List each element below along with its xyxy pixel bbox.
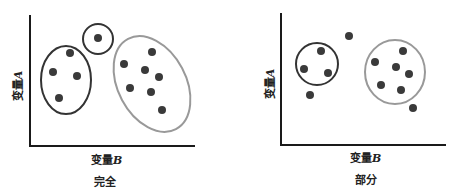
cluster-outlines: [41, 23, 206, 145]
data-point: [306, 91, 314, 99]
data-point: [300, 65, 308, 73]
data-point: [148, 48, 156, 56]
cluster-ellipse: [365, 40, 425, 104]
data-point: [392, 63, 400, 71]
x-label-text: 变量: [350, 152, 372, 165]
data-point: [49, 68, 57, 76]
data-point: [155, 73, 163, 81]
data-point: [409, 104, 417, 112]
data-point: [345, 32, 353, 40]
data-point: [405, 70, 413, 78]
caption-complete: 完全: [94, 173, 116, 189]
panel-partial: [280, 13, 446, 145]
cluster-ellipse: [98, 23, 206, 145]
x-var: B: [372, 152, 381, 165]
x-axis-label-partial: 变量B: [350, 149, 381, 165]
data-point: [147, 88, 155, 96]
caption-partial: 部分: [355, 171, 377, 187]
data-point: [377, 81, 385, 89]
data-point: [397, 86, 405, 94]
data-point: [55, 94, 63, 102]
x-label-text: 变量: [91, 154, 113, 167]
cluster-ellipse: [296, 43, 338, 85]
y-var: A: [12, 71, 25, 80]
y-axis-label-complete: 变量A: [9, 71, 25, 102]
y-label-text: 变量: [264, 77, 277, 99]
data-point: [317, 47, 325, 55]
data-point: [126, 84, 134, 92]
data-point: [66, 49, 74, 57]
data-point: [141, 66, 149, 74]
x-axis-label-complete: 变量B: [91, 151, 122, 167]
data-point: [94, 34, 102, 42]
data-point: [73, 72, 81, 80]
panel-complete: [29, 15, 206, 146]
data-point: [324, 69, 332, 77]
y-label-text: 变量: [12, 79, 25, 101]
data-point: [371, 58, 379, 66]
data-point: [120, 60, 128, 68]
data-point: [158, 106, 166, 114]
cluster-ellipse: [41, 46, 91, 114]
y-var: A: [264, 69, 277, 78]
data-point: [399, 47, 407, 55]
x-var: B: [113, 154, 122, 167]
y-axis-label-partial: 变量A: [261, 69, 277, 100]
scatter-diagram: [0, 0, 457, 196]
